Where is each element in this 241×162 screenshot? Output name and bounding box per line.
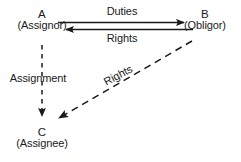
- node-a-role: (Assignor): [0, 20, 84, 32]
- node-c-role: (Assignee): [0, 138, 84, 150]
- edge-label-assignment: Assignment: [2, 72, 74, 84]
- edge-label-duties: Duties: [92, 5, 152, 17]
- edge-rights-bc-line: [59, 41, 192, 118]
- node-b: B (Obligor): [163, 8, 241, 32]
- node-b-role: (Obligor): [163, 20, 241, 32]
- node-a: A (Assignor): [0, 8, 84, 32]
- edge-label-rights-ab: Rights: [92, 32, 152, 44]
- assignment-diagram: A (Assignor) B (Obligor) C (Assignee) Du…: [0, 0, 241, 162]
- node-c: C (Assignee): [0, 126, 84, 150]
